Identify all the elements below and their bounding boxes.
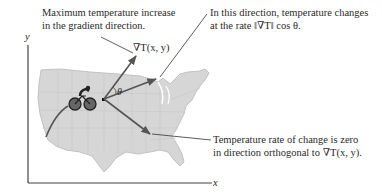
annotation-zero-line1: Temperature rate of change is zero [213,134,362,147]
annotation-direction-rate: In this direction, temperature changes a… [210,7,368,32]
us-map [38,69,209,172]
annotation-zero-line2: in direction orthogonal to ∇T(x, y). [213,147,362,160]
leader-max [101,37,133,53]
theta-label: θ [117,86,122,99]
annotation-max-increase: Maximum temperature increase in the grad… [42,7,176,32]
annotation-dir-line1: In this direction, temperature changes [210,7,368,20]
gradient-label: ∇T(x, y) [133,42,170,55]
annotation-dir-line2: at the rate ‖∇T‖ cos θ. [210,20,368,33]
annotation-max-line1: Maximum temperature increase [42,7,176,20]
x-axis-label: x [213,177,218,190]
annotation-zero-rate: Temperature rate of change is zero in di… [213,134,362,159]
annotation-max-line2: in the gradient direction. [42,20,176,33]
y-axis-label: y [25,31,30,44]
